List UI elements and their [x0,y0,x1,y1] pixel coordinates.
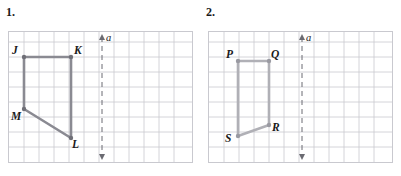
problem-panel-1: 1. [0,0,200,176]
line-of-reflection-a-2 [299,34,305,160]
vertex-label-J: J [12,45,18,57]
grid-svg-2 [209,32,392,162]
line-of-reflection-a-1 [99,34,105,160]
axis-label-a-1: a [106,33,111,44]
vertex-R [267,123,271,127]
vertex-label-L: L [72,139,79,151]
coordinate-grid-2 [208,31,393,163]
vertex-label-Q: Q [271,49,279,61]
vertex-label-K: K [74,45,82,57]
grid-lines-2 [209,32,392,162]
grid-svg-1 [9,32,192,162]
vertex-label-M: M [11,111,21,123]
problem-number-2: 2. [206,5,215,20]
coordinate-grid-1 [8,31,193,163]
vertex-label-P: P [226,49,233,61]
vertex-P [236,59,240,63]
axis-label-a-2: a [306,33,311,44]
vertex-M [22,107,26,111]
quadrilateral-PQRS [236,59,271,138]
vertex-label-S: S [225,133,231,145]
vertex-J [22,55,26,59]
vertex-S [236,134,240,138]
problem-panel-2: 2. [200,0,401,176]
vertex-K [69,55,73,59]
grid-lines-1 [9,32,192,162]
problem-number-1: 1. [6,5,15,20]
quadrilateral-JKLM [22,55,73,140]
vertex-label-R: R [272,122,280,134]
